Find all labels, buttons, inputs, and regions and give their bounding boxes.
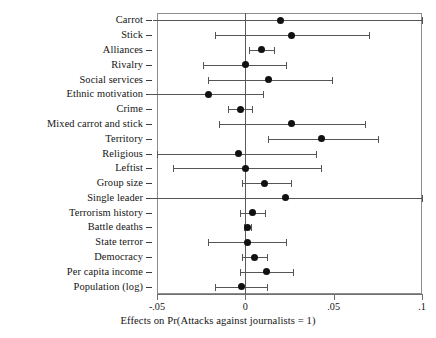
estimate-point-marker [288,120,295,127]
estimate-row [0,87,436,101]
estimate-point-marker [261,180,268,187]
estimate-row [0,13,436,27]
confidence-interval-cap-low [219,121,220,128]
confidence-interval-cap-high [263,91,264,98]
confidence-interval-cap-low [228,106,229,113]
x-axis-tick [157,294,158,300]
estimate-point-marker [237,106,244,113]
estimate-point-marker [235,150,242,157]
confidence-interval-cap-low [268,136,269,143]
estimate-point-marker [242,165,249,172]
confidence-interval-cap-low [157,151,158,158]
estimate-point-marker [318,135,325,142]
estimate-point-marker [249,209,256,216]
confidence-interval-cap-high [365,121,366,128]
confidence-interval-cap-high [332,77,333,84]
x-axis-tick-label: .1 [402,301,436,313]
estimate-row [0,58,436,72]
estimate-point-marker [244,239,251,246]
confidence-interval-cap-low [215,284,216,291]
confidence-interval-cap-low [242,180,243,187]
estimate-point-marker [282,194,289,201]
estimate-point-marker [277,17,284,24]
estimate-point-marker [288,32,295,39]
estimate-row [0,220,436,234]
confidence-interval-cap-high [251,224,252,231]
estimate-point-marker [265,76,272,83]
coefficient-plot: CarrotStickAlliancesRivalrySocial servic… [0,0,436,338]
confidence-interval-cap-low [173,165,174,172]
estimate-row [0,117,436,131]
estimate-point-marker [205,91,212,98]
confidence-interval-cap-high [274,47,275,54]
confidence-interval-cap-low [208,77,209,84]
confidence-interval-cap-low [215,32,216,39]
estimate-row [0,235,436,249]
estimate-row [0,161,436,175]
estimate-row [0,206,436,220]
estimate-point-marker [242,61,249,68]
confidence-interval-cap-high [267,284,268,291]
confidence-interval-cap-low [249,47,250,54]
estimate-row [0,250,436,264]
x-axis-tick-label: .05 [314,301,354,313]
estimate-row [0,280,436,294]
confidence-interval-cap-high [291,180,292,187]
confidence-interval-cap-high [369,32,370,39]
x-axis-tick [245,294,246,300]
confidence-interval-cap-low [203,62,204,69]
confidence-interval-cap-high [321,165,322,172]
confidence-interval-cap-high [293,269,294,276]
confidence-interval-cap-high [286,239,287,246]
estimate-row [0,147,436,161]
x-axis-tick-label: -.05 [137,301,177,313]
estimate-row [0,176,436,190]
x-axis-tick-label: 0 [225,301,265,313]
estimate-point-marker [244,224,251,231]
x-axis-tick [422,294,423,300]
estimate-row [0,43,436,57]
confidence-interval-cap-high [267,254,268,261]
confidence-interval-cap-high [378,136,379,143]
x-axis-title: Effects on Pr(Attacks against journalist… [0,315,436,326]
x-axis-line [157,294,422,295]
estimate-row [0,265,436,279]
confidence-interval-cap-low [242,254,243,261]
estimate-row [0,73,436,87]
confidence-interval-cap-low [208,239,209,246]
confidence-interval-cap-high [286,62,287,69]
estimate-row [0,132,436,146]
confidence-interval-cap-high [252,106,253,113]
confidence-interval-bar [153,20,422,21]
confidence-interval-cap-high [316,151,317,158]
estimate-point-marker [263,268,270,275]
estimate-row [0,102,436,116]
estimate-row [0,191,436,205]
estimate-row [0,28,436,42]
confidence-interval-cap-low [240,269,241,276]
x-axis-tick [334,294,335,300]
estimate-point-marker [258,46,265,53]
confidence-interval-cap-high [422,17,423,24]
confidence-interval-cap-high [265,210,266,217]
estimate-point-marker [251,254,258,261]
confidence-interval-cap-low [240,210,241,217]
confidence-interval-cap-high [422,195,423,202]
estimate-point-marker [238,283,245,290]
